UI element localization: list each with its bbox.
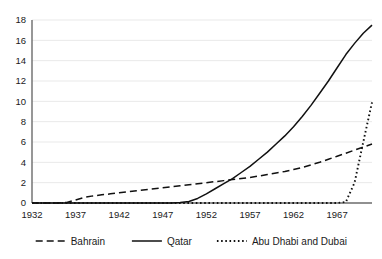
y-tick-label: 16 [15, 35, 26, 46]
x-tick-label: 1932 [21, 209, 42, 220]
y-tick-label: 14 [15, 55, 26, 66]
x-tick-label: 1937 [65, 209, 86, 220]
y-tick-label: 6 [21, 136, 26, 147]
y-axis-tick-labels: 024681012141618 [15, 14, 26, 208]
gridlines-group [32, 20, 372, 183]
x-tick-label: 1962 [283, 209, 304, 220]
y-tick-label: 10 [15, 96, 26, 107]
x-tick-label: 1967 [327, 209, 348, 220]
series-line-abu-dhabi-and-dubai [32, 102, 372, 203]
legend-label-qatar: Qatar [167, 236, 193, 247]
series-line-qatar [32, 25, 372, 203]
y-tick-label: 8 [21, 116, 26, 127]
y-tick-label: 4 [21, 157, 26, 168]
legend-label-bahrain: Bahrain [71, 236, 105, 247]
x-tick-label: 1947 [152, 209, 173, 220]
line-chart: 024681012141618 193219371942194719521957… [0, 0, 382, 259]
chart-container: 024681012141618 193219371942194719521957… [0, 0, 382, 259]
x-tick-label: 1957 [239, 209, 260, 220]
data-series-group [32, 25, 372, 203]
x-axis-tick-labels: 19321937194219471952195719621967 [21, 209, 347, 220]
x-tick-label: 1942 [109, 209, 130, 220]
series-line-bahrain [32, 144, 372, 203]
x-tick-label: 1952 [196, 209, 217, 220]
chart-legend: BahrainQatarAbu Dhabi and Dubai [36, 236, 347, 247]
y-tick-label: 18 [15, 14, 26, 25]
axes-group [32, 20, 372, 203]
y-tick-label: 2 [21, 177, 26, 188]
legend-label-abu-dhabi-and-dubai: Abu Dhabi and Dubai [252, 236, 347, 247]
y-tick-label: 0 [21, 197, 26, 208]
y-tick-label: 12 [15, 75, 26, 86]
